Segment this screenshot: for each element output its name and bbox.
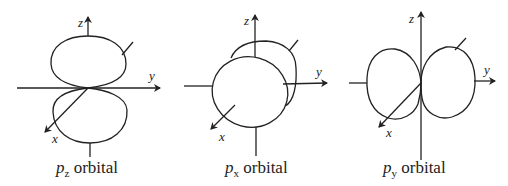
py-caption-subscript: y [392,167,398,179]
pz-diagram [17,17,160,157]
py-y-label: y [482,62,490,77]
px-caption-text: orbital [243,158,287,177]
py-x-label: x [385,125,392,140]
px-caption-subscript: x [234,167,240,179]
px-y-label: y [314,64,322,79]
py-diagram [349,12,495,160]
px-y-axis [283,83,327,84]
px-z-label: z [243,13,249,28]
py-x-axis [379,83,421,127]
pz-x-label: x [51,131,58,146]
py-left-lobe [367,49,421,119]
py-z-label: z [408,11,414,26]
px-x-label: x [218,129,225,144]
pz-caption-subscript: z [65,167,70,179]
py-caption-symbol: p [383,158,392,177]
px-x-axis [211,105,235,129]
pz-y-label: y [147,68,155,83]
pz-caption-symbol: p [56,158,65,177]
py-right-lobe [421,47,475,118]
pz-caption: pz orbital [56,158,118,179]
pz-x-axis [45,88,88,132]
py-caption-text: orbital [401,158,445,177]
px-back-lobe [231,41,296,106]
px-caption-symbol: p [225,158,234,177]
pz-lower-lobe [53,88,127,143]
pz-caption-text: orbital [74,158,118,177]
py-caption: py orbital [383,158,446,179]
px-caption: px orbital [225,158,288,179]
pz-upper-lobe [51,36,126,88]
px-diagram [184,15,327,156]
pz-z-label: z [77,15,83,30]
